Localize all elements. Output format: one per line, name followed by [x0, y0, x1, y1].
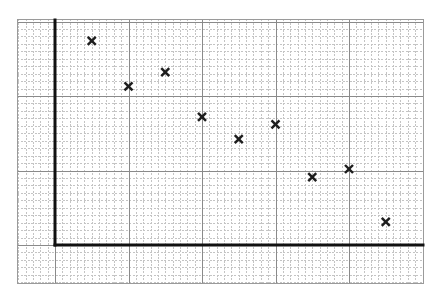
x-marker-icon — [382, 218, 390, 226]
x-marker-icon — [235, 135, 243, 143]
scatter-chart — [0, 0, 443, 291]
x-marker-icon — [125, 82, 133, 90]
data-points — [88, 37, 390, 226]
minor-gridlines — [17, 19, 423, 283]
x-marker-icon — [272, 120, 280, 128]
x-marker-icon — [88, 37, 96, 45]
